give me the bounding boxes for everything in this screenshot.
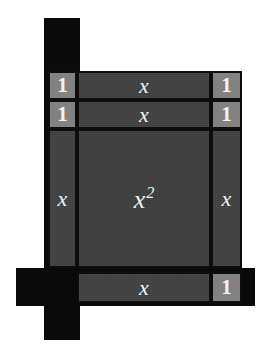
unit-tile-top-right-row2: 1 bbox=[211, 100, 242, 129]
x-tile-left-column-label: x bbox=[58, 188, 68, 210]
frame-vertical-top-bar bbox=[44, 18, 80, 71]
unit-tile-bottom-right-label: 1 bbox=[221, 277, 232, 298]
x-tile-bottom-row: x bbox=[77, 272, 211, 303]
unit-tile-top-left-row1: 1 bbox=[48, 71, 77, 100]
x-tile-right-column: x bbox=[211, 129, 242, 268]
x-tile-right-column-label: x bbox=[222, 188, 232, 210]
x-squared-tile: x2 bbox=[77, 129, 211, 268]
x-tile-top-row1-label: x bbox=[139, 75, 149, 97]
x-tile-bottom-row-label: x bbox=[139, 277, 149, 299]
unit-tile-top-left-row2-label: 1 bbox=[57, 104, 68, 125]
x-tile-top-row2: x bbox=[77, 100, 211, 129]
x-squared-base: x bbox=[134, 184, 146, 213]
unit-tile-top-right-row1: 1 bbox=[211, 71, 242, 100]
unit-tile-top-right-row2-label: 1 bbox=[221, 104, 232, 125]
unit-tile-top-left-row1-label: 1 bbox=[57, 75, 68, 96]
unit-tile-top-right-row1-label: 1 bbox=[221, 75, 232, 96]
unit-tile-bottom-right: 1 bbox=[211, 272, 242, 303]
x-squared-exponent: 2 bbox=[146, 184, 154, 201]
x-tile-top-row2-label: x bbox=[139, 104, 149, 126]
unit-tile-top-left-row2: 1 bbox=[48, 100, 77, 129]
x-tile-top-row1: x bbox=[77, 71, 211, 100]
x-squared-tile-label: x2 bbox=[134, 185, 155, 213]
frame-vertical-bottom-tail bbox=[44, 268, 80, 340]
algebra-tile-diagram: 1 1 x x 1 1 x x2 x x 1 bbox=[0, 0, 280, 347]
x-tile-left-column: x bbox=[48, 129, 77, 268]
